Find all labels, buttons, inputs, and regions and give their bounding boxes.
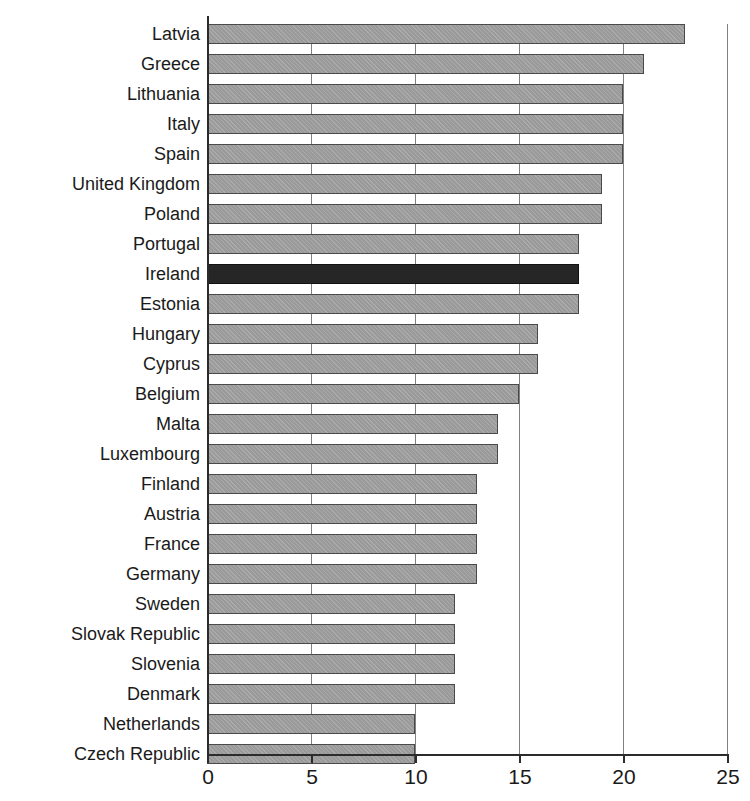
bar[interactable] [207, 504, 477, 524]
bar-row [207, 474, 727, 504]
category-label-row: Sweden [0, 594, 207, 624]
bar-row [207, 744, 727, 774]
category-label: Cyprus [7, 354, 207, 374]
bar-row [207, 234, 727, 264]
category-label-row: Poland [0, 204, 207, 234]
category-label: Germany [7, 564, 207, 584]
x-tick-label: 20 [612, 766, 635, 787]
bar[interactable] [207, 414, 498, 434]
x-tick-label: 15 [508, 766, 531, 787]
bar[interactable] [207, 654, 455, 674]
bar-row [207, 54, 727, 84]
x-tick-20 [623, 754, 625, 763]
bar[interactable] [207, 714, 415, 734]
bar-row [207, 684, 727, 714]
category-label-row: Lithuania [0, 84, 207, 114]
bar-row [207, 114, 727, 144]
bar-row [207, 564, 727, 594]
bar[interactable] [207, 354, 538, 374]
bar[interactable] [207, 114, 623, 134]
category-label: Luxembourg [7, 444, 207, 464]
bar[interactable] [207, 564, 477, 584]
category-label: Finland [7, 474, 207, 494]
bar[interactable] [207, 204, 602, 224]
bar[interactable] [207, 144, 623, 164]
bar-row [207, 504, 727, 534]
category-label: Portugal [7, 234, 207, 254]
bar[interactable] [207, 234, 579, 254]
bar[interactable] [207, 684, 455, 704]
category-label-row: Slovak Republic [0, 624, 207, 654]
bar[interactable] [207, 324, 538, 344]
category-label-row: United Kingdom [0, 174, 207, 204]
category-label-row: Finland [0, 474, 207, 504]
x-axis-line [207, 754, 728, 756]
bar-row [207, 264, 727, 294]
bar[interactable] [207, 624, 455, 644]
bar-chart: LatviaGreeceLithuaniaItalySpainUnited Ki… [0, 0, 750, 801]
x-tick-0 [207, 754, 209, 763]
category-label: Spain [7, 144, 207, 164]
bar-row [207, 84, 727, 114]
bar[interactable] [207, 384, 519, 404]
bar-row [207, 324, 727, 354]
category-label-row: Portugal [0, 234, 207, 264]
category-label-row: Italy [0, 114, 207, 144]
category-label: Poland [7, 204, 207, 224]
category-label-row: Austria [0, 504, 207, 534]
x-tick-label: 25 [716, 766, 739, 787]
x-tick-label: 10 [404, 766, 427, 787]
category-label: Italy [7, 114, 207, 134]
category-label-row: Spain [0, 144, 207, 174]
category-label-row: Latvia [0, 24, 207, 54]
category-label: Belgium [7, 384, 207, 404]
category-label: Netherlands [7, 714, 207, 734]
bar[interactable] [207, 54, 644, 74]
bar[interactable] [207, 294, 579, 314]
category-label: Sweden [7, 594, 207, 614]
category-label: France [7, 534, 207, 554]
category-label-row: Estonia [0, 294, 207, 324]
bar-row [207, 714, 727, 744]
category-label-row: Slovenia [0, 654, 207, 684]
category-label-row: Cyprus [0, 354, 207, 384]
bar-row [207, 534, 727, 564]
bar-row [207, 624, 727, 654]
bar[interactable] [207, 444, 498, 464]
category-label: Ireland [7, 264, 207, 284]
category-label-row: Greece [0, 54, 207, 84]
category-label: Greece [7, 54, 207, 74]
category-label-row: Malta [0, 414, 207, 444]
bar[interactable] [207, 474, 477, 494]
category-label-row: Hungary [0, 324, 207, 354]
bar-row [207, 204, 727, 234]
category-label: Czech Republic [7, 744, 207, 764]
category-label: Slovenia [7, 654, 207, 674]
bar-highlighted[interactable] [207, 264, 579, 284]
bar-row [207, 354, 727, 384]
bar-row [207, 294, 727, 324]
category-label: Hungary [7, 324, 207, 344]
bar[interactable] [207, 174, 602, 194]
bar[interactable] [207, 84, 623, 104]
bar-row [207, 444, 727, 474]
gridline-25 [727, 24, 728, 754]
bar[interactable] [207, 534, 477, 554]
bar[interactable] [207, 594, 455, 614]
category-label-row: Czech Republic [0, 744, 207, 774]
category-label-row: Belgium [0, 384, 207, 414]
bar[interactable] [207, 24, 685, 44]
category-label: Lithuania [7, 84, 207, 104]
x-tick-5 [311, 754, 313, 763]
category-axis-labels: LatviaGreeceLithuaniaItalySpainUnited Ki… [0, 24, 207, 754]
plot-area [207, 24, 727, 754]
bar-row [207, 24, 727, 54]
category-label-row: Luxembourg [0, 444, 207, 474]
x-tick-label: 0 [202, 766, 214, 787]
x-tick-10 [415, 754, 417, 763]
bar-row [207, 174, 727, 204]
category-label: Latvia [7, 24, 207, 44]
category-label-row: Netherlands [0, 714, 207, 744]
category-label-row: Denmark [0, 684, 207, 714]
x-tick-label: 5 [306, 766, 318, 787]
